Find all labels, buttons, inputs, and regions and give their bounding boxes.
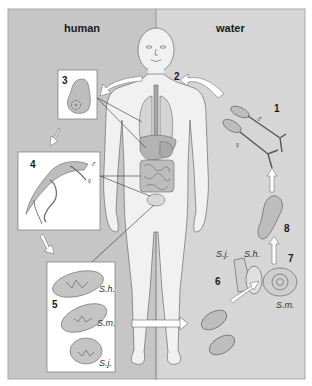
- male-symbol: ♂: [90, 159, 97, 169]
- egg-label-sh: S.h.: [99, 284, 115, 294]
- snail-label-sm: S.m.: [276, 300, 295, 310]
- water-label: water: [215, 22, 245, 34]
- stage-6-number: 6: [215, 276, 221, 287]
- stage-5-number: 5: [52, 299, 58, 310]
- stage-4-box: 4 ♂ ♀: [18, 152, 100, 230]
- stage-3-box: 3: [58, 70, 97, 119]
- stage-5-box: 5 S.h. S.m. S.j.: [47, 262, 116, 372]
- cercaria-male-symbol: ♂: [256, 114, 263, 124]
- stage-7-number: 7: [288, 253, 294, 264]
- cercaria-female-symbol: ♀: [234, 140, 241, 150]
- stage-4-number: 4: [30, 159, 36, 170]
- skin-penetration-arrow: [132, 320, 184, 327]
- human-label: human: [64, 22, 100, 34]
- snail-label-sj: S.j.: [216, 249, 229, 259]
- stage-2-number: 2: [174, 71, 180, 82]
- schistosoma-lifecycle-diagram: human water: [0, 0, 312, 386]
- snail-s-mansoni: [263, 268, 297, 296]
- stage-1-number: 1: [274, 103, 280, 114]
- stage-8-number: 8: [284, 223, 290, 234]
- snail-label-sh: S.h.: [244, 249, 260, 259]
- egg-s-japonicum: [70, 338, 102, 364]
- egg-label-sm: S.m.: [97, 318, 116, 328]
- stage-3-number: 3: [62, 75, 68, 86]
- female-symbol: ♀: [86, 176, 93, 186]
- egg-label-sj: S.j.: [99, 358, 112, 368]
